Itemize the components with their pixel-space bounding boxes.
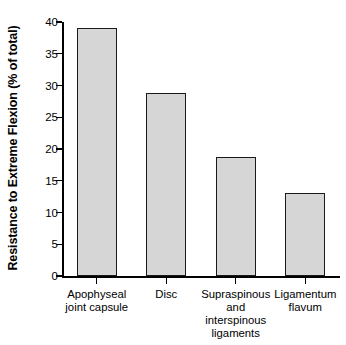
- plot-area: 0510152025303540: [62, 22, 340, 276]
- x-axis-category-label: Apophyseal joint capsule: [58, 288, 136, 314]
- y-tick-label: 0: [52, 270, 58, 282]
- y-tick-label: 10: [45, 207, 58, 219]
- x-axis-category-label: Ligamentum flavum: [267, 288, 345, 314]
- bar: [285, 193, 325, 276]
- bar: [77, 28, 117, 276]
- y-tick-label: 25: [45, 111, 58, 123]
- y-tick-label: 20: [45, 143, 58, 155]
- x-tick-mark: [166, 277, 167, 284]
- y-tick-label: 15: [45, 175, 58, 187]
- x-tick-mark: [235, 277, 236, 284]
- bar: [216, 157, 256, 276]
- y-axis-line: [62, 22, 64, 276]
- x-axis-category-label: Supraspinous and interspinous ligaments: [197, 288, 275, 340]
- y-tick-label: 35: [45, 48, 58, 60]
- x-axis-category-label: Disc: [128, 288, 206, 301]
- y-tick-label: 30: [45, 80, 58, 92]
- y-tick-label: 5: [52, 238, 58, 250]
- bar: [146, 93, 186, 276]
- bar-chart: Resistance to Extreme Flexion (% of tota…: [0, 0, 346, 345]
- x-tick-mark: [96, 277, 97, 284]
- x-tick-mark: [305, 277, 306, 284]
- x-axis-line: [62, 276, 340, 278]
- y-tick-label: 40: [45, 16, 58, 28]
- y-axis-title: Resistance to Extreme Flexion (% of tota…: [2, 3, 24, 293]
